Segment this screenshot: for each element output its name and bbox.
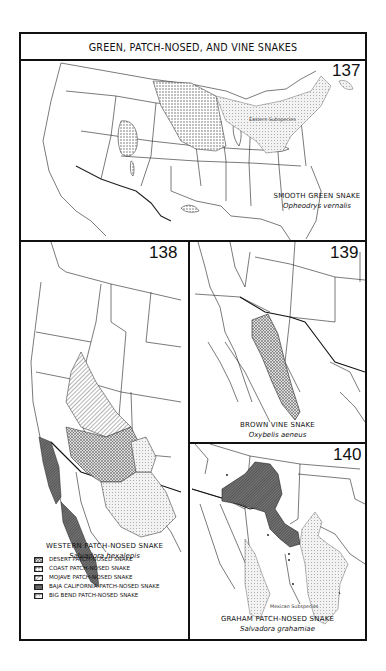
map-panel-140: Mexican Subspecies 140 GRAHAM PATCH-NOSE… (188, 442, 367, 641)
map-caption: BROWN VINE SNAKE Oxybelis aeneus (190, 420, 365, 440)
map-caption: SMOOTH GREEN SNAKE Opheodrys vernalis (267, 191, 367, 211)
eastern-subspecies-label: Eastern Subspecies (249, 117, 296, 122)
mojave-swatch-icon (34, 575, 43, 581)
desert-swatch-icon (34, 557, 43, 563)
common-name: BROWN VINE SNAKE (190, 420, 365, 430)
common-name: SMOOTH GREEN SNAKE (267, 191, 367, 201)
map-panel-137: Eastern Subspecies 137 SMOOTH GREEN SNAK… (19, 59, 367, 242)
big-bend-swatch-icon (34, 593, 43, 599)
map-number: 140 (333, 445, 361, 465)
map-number: 137 (332, 61, 360, 81)
common-name: WESTERN PATCH-NOSED SNAKE (21, 541, 188, 551)
legend-item-baja: BAJA CALIFORNIA PATCH-NOSED SNAKE (34, 582, 159, 591)
map-number: 138 (149, 243, 177, 263)
legend-item-coast: COAST PATCH-NOSED SNAKE (34, 564, 159, 573)
scientific-name: Opheodrys vernalis (267, 201, 367, 211)
smooth-green-snake-map: Eastern Subspecies (21, 61, 367, 242)
map-number: 139 (330, 243, 358, 263)
page-title: GREEN, PATCH-NOSED, AND VINE SNAKES (89, 42, 298, 53)
scientific-name: Salvadora grahamiae (190, 624, 365, 634)
brown-vine-snake-map (190, 242, 367, 444)
common-name: GRAHAM PATCH-NOSED SNAKE (190, 614, 365, 624)
coast-swatch-icon (34, 566, 43, 572)
legend-item-big-bend: BIG BEND PATCH-NOSED SNAKE (34, 591, 159, 600)
map-legend: DESERT PATCH-NOSED SNAKE COAST PATCH-NOS… (34, 555, 159, 600)
legend-item-desert: DESERT PATCH-NOSED SNAKE (34, 555, 159, 564)
mexican-subspecies-label: Mexican Subspecies (270, 604, 319, 609)
map-panel-139: 139 BROWN VINE SNAKE Oxybelis aeneus (188, 240, 367, 444)
graham-patch-nosed-snake-map: Mexican Subspecies (190, 444, 367, 641)
scientific-name: Oxybelis aeneus (190, 430, 365, 440)
map-caption: GRAHAM PATCH-NOSED SNAKE Salvadora graha… (190, 614, 365, 634)
legend-item-mojave: MOJAVE PATCH-NOSED SNAKE (34, 573, 159, 582)
baja-swatch-icon (34, 584, 43, 590)
